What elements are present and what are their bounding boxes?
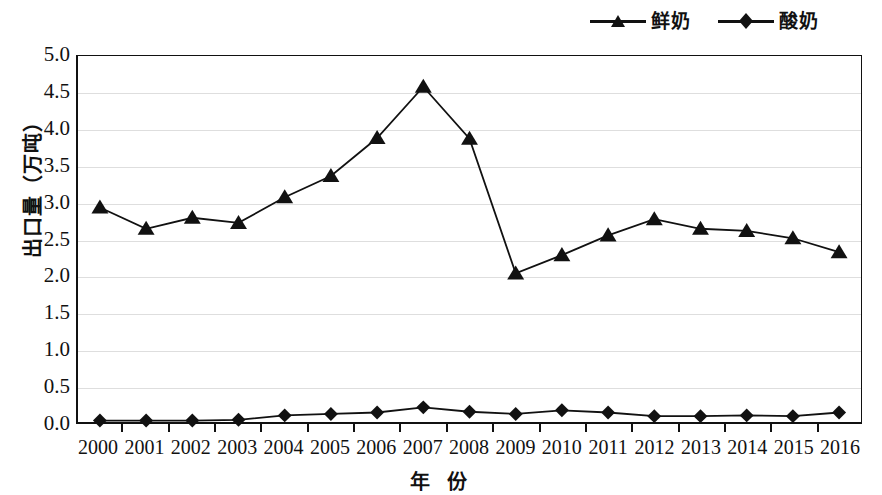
y-axis-tick-label: 0.0 bbox=[22, 413, 70, 434]
x-axis-tick bbox=[631, 424, 633, 432]
data-point-marker bbox=[832, 406, 846, 420]
legend-entry-fresh-milk: 鲜奶 bbox=[590, 12, 690, 31]
data-point-marker bbox=[647, 409, 661, 423]
series-fresh-milk bbox=[91, 79, 847, 280]
x-axis-tick bbox=[353, 424, 355, 432]
x-axis-tick bbox=[307, 424, 309, 432]
series-line bbox=[100, 87, 839, 274]
y-axis-tick-label: 3.5 bbox=[22, 155, 70, 176]
x-axis-tick bbox=[446, 424, 448, 432]
data-point-marker bbox=[601, 406, 615, 420]
y-axis-tick-label: 4.0 bbox=[22, 118, 70, 139]
data-point-marker bbox=[694, 409, 708, 423]
data-point-marker bbox=[324, 407, 338, 421]
y-axis-tick-label: 1.5 bbox=[22, 302, 70, 323]
x-axis-tick bbox=[399, 424, 401, 432]
plot-area bbox=[76, 55, 862, 424]
data-point-marker bbox=[91, 200, 108, 214]
data-point-marker bbox=[416, 400, 430, 414]
x-axis-tick bbox=[260, 424, 262, 432]
x-axis-tick-label: 2016 bbox=[810, 437, 870, 457]
data-point-marker bbox=[415, 79, 432, 93]
x-axis-tick bbox=[678, 424, 680, 432]
x-axis-title: 年 份 bbox=[0, 466, 882, 495]
y-axis-tick-label: 1.0 bbox=[22, 339, 70, 360]
x-axis-tick bbox=[770, 424, 772, 432]
x-axis-tick bbox=[817, 424, 819, 432]
legend-label-fresh-milk: 鲜奶 bbox=[651, 12, 690, 31]
chart-figure: 鲜奶 酸奶 出口量（万吨） 5.04.54.03.53.02.52.01.51.… bbox=[0, 0, 882, 495]
data-point-marker bbox=[555, 403, 569, 417]
y-axis-tick-label: 4.5 bbox=[22, 81, 70, 102]
x-axis-tick bbox=[539, 424, 541, 432]
data-point-marker bbox=[600, 227, 617, 241]
data-point-marker bbox=[93, 414, 107, 428]
y-axis-tick-label: 5.0 bbox=[22, 44, 70, 65]
x-axis-tick bbox=[492, 424, 494, 432]
y-axis-tick-label: 0.5 bbox=[22, 376, 70, 397]
data-point-marker bbox=[370, 406, 384, 420]
data-point-marker bbox=[740, 408, 754, 422]
x-axis-tick bbox=[168, 424, 170, 432]
series-yogurt bbox=[93, 400, 846, 427]
data-point-marker bbox=[646, 211, 663, 225]
x-axis-tick bbox=[214, 424, 216, 432]
data-point-marker bbox=[278, 408, 292, 422]
data-point-marker bbox=[185, 414, 199, 428]
data-point-marker bbox=[553, 247, 570, 261]
data-point-marker bbox=[509, 407, 523, 421]
series-layer bbox=[78, 56, 861, 422]
data-point-marker bbox=[232, 413, 246, 427]
data-point-marker bbox=[786, 409, 800, 423]
y-axis-tick-labels: 5.04.54.03.53.02.52.01.51.00.50.0 bbox=[18, 0, 70, 495]
data-point-marker bbox=[463, 405, 477, 419]
data-point-marker bbox=[276, 189, 293, 203]
data-point-marker bbox=[139, 414, 153, 428]
y-axis-tick-label: 2.5 bbox=[22, 229, 70, 250]
legend-label-yogurt: 酸奶 bbox=[779, 12, 818, 31]
data-point-marker bbox=[184, 210, 201, 224]
legend-entry-yogurt: 酸奶 bbox=[718, 12, 818, 31]
data-point-marker bbox=[507, 265, 524, 279]
x-axis-tick bbox=[121, 424, 123, 432]
diamond-marker-icon bbox=[718, 12, 774, 30]
y-axis-tick-label: 3.0 bbox=[22, 192, 70, 213]
x-axis-tick bbox=[585, 424, 587, 432]
chart-legend: 鲜奶 酸奶 bbox=[590, 6, 870, 36]
triangle-marker-icon bbox=[590, 12, 646, 30]
x-axis-tick bbox=[724, 424, 726, 432]
y-axis-tick-label: 2.0 bbox=[22, 265, 70, 286]
